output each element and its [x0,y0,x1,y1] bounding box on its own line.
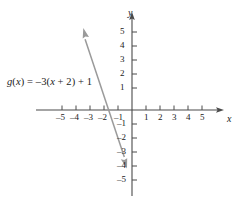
x-tick-label: –4 [70,113,79,122]
y-tick-label: 4 [120,41,125,50]
y-tick-label: 1 [120,83,125,92]
x-tick-label: –5 [56,113,65,122]
y-tick-label: –3 [117,147,126,156]
equation-equals: = [24,76,35,87]
equation-annotation: g(x) = –3(x + 2) + 1 [7,76,92,87]
y-tick-label: 5 [120,27,125,36]
y-tick-label: –2 [117,133,126,142]
function-line-arrowhead-top [83,28,89,39]
equation-rest: –3( [36,76,50,87]
y-axis-ticks [132,32,137,180]
y-tick-label: 2 [120,69,125,78]
y-axis [129,12,137,196]
equation-tail: + 2) + 1 [55,76,92,87]
x-axis-label: x [227,114,231,124]
x-tick-label: 5 [200,113,205,122]
coordinate-graph-figure: y x –5 –4 –3 –2 –1 1 2 3 4 5 5 4 3 2 1 –… [0,0,242,209]
x-tick-label: 1 [144,113,149,122]
x-tick-label: 4 [186,113,191,122]
y-axis-label: y [128,8,132,18]
x-tick-label: 2 [158,113,163,122]
x-tick-label: 3 [172,113,177,122]
y-tick-label: –1 [117,119,126,128]
y-tick-label: 3 [120,55,125,64]
y-tick-label: –4 [117,161,126,170]
x-tick-label: –3 [84,113,93,122]
y-tick-label: –5 [117,175,126,184]
x-tick-label: –2 [98,113,107,122]
